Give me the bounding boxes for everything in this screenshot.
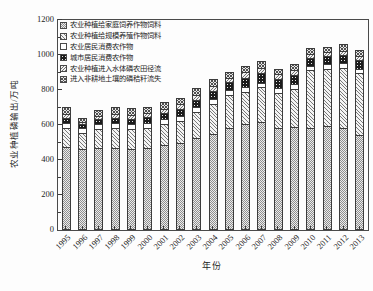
x-tick [65, 226, 66, 229]
bar-segment-3 [193, 107, 200, 112]
bar-segment-1 [226, 128, 233, 229]
bar-segment-6 [291, 64, 298, 70]
bar-segment-5 [177, 104, 184, 108]
bar-segment-1 [112, 148, 119, 229]
bar-segment-2 [307, 70, 314, 128]
bar-segment-3 [324, 64, 331, 69]
x-tick [147, 226, 148, 229]
x-tick [98, 226, 99, 229]
bar-segment-6 [242, 66, 249, 72]
legend-item: 进入非耕地土壤的磷秸秆流失 [60, 74, 161, 85]
legend-label: 农业种植进入水体磷农田径流 [70, 65, 161, 73]
bar-segment-6 [340, 44, 347, 50]
bar-1996 [78, 118, 87, 230]
y-minor-tick [58, 177, 61, 178]
bar-2001 [160, 102, 169, 230]
x-tick [114, 226, 115, 229]
bar-2002 [176, 98, 185, 230]
bar-segment-6 [210, 79, 217, 87]
y-tick [58, 19, 62, 20]
bar-segment-3 [112, 123, 119, 128]
y-minor-tick [58, 72, 61, 73]
x-tick [294, 226, 295, 229]
bar-1998 [111, 107, 120, 230]
y-tick [58, 89, 62, 90]
bar-segment-1 [275, 128, 282, 229]
bar-segment-2 [340, 68, 347, 128]
y-tick [58, 159, 62, 160]
bar-segment-1 [95, 148, 102, 229]
bar-segment-5 [210, 86, 217, 91]
y-tick [58, 194, 62, 195]
y-tick-label: 400 [18, 154, 54, 164]
bar-segment-6 [95, 110, 102, 116]
bar-2008 [274, 69, 283, 230]
x-tick [196, 226, 197, 229]
bar-2007 [257, 61, 266, 230]
bar-2006 [241, 66, 250, 230]
bar-segment-1 [258, 122, 265, 229]
bar-segment-6 [275, 69, 282, 74]
bar-segment-5 [193, 95, 200, 100]
legend-item: 农业居民消费农作物 [60, 42, 161, 53]
bar-2005 [225, 72, 234, 230]
bar-segment-5 [226, 78, 233, 82]
bar-segment-3 [95, 124, 102, 129]
bar-segment-6 [79, 118, 86, 122]
bar-segment-2 [258, 87, 265, 122]
bar-segment-1 [193, 138, 200, 229]
bar-segment-1 [356, 135, 363, 230]
y-tick-label: 800 [18, 84, 54, 94]
x-tick [277, 226, 278, 229]
bar-segment-6 [356, 50, 363, 56]
bar-segment-1 [340, 128, 347, 230]
bar-segment-2 [356, 73, 363, 134]
bar-segment-6 [177, 98, 184, 105]
bar-segment-2 [144, 128, 151, 148]
bar-segment-1 [307, 128, 314, 229]
bar-segment-6 [63, 107, 70, 113]
bar-segment-1 [291, 127, 298, 229]
bar-segment-3 [242, 87, 249, 92]
bar-segment-2 [275, 93, 282, 129]
bar-segment-2 [112, 128, 119, 148]
bar-segment-3 [161, 119, 168, 124]
x-axis-title: 年份 [202, 259, 222, 272]
bar-segment-5 [161, 109, 168, 113]
bar-segment-6 [193, 88, 200, 95]
bar-segment-1 [210, 134, 217, 229]
x-tick [228, 226, 229, 229]
legend-swatch-1 [60, 22, 67, 29]
bar-segment-4 [307, 58, 314, 66]
bar-2013 [355, 50, 364, 230]
y-tick-label: 1200 [18, 14, 54, 24]
bar-2000 [143, 107, 152, 231]
x-tick [179, 226, 180, 229]
bar-segment-4 [177, 109, 184, 116]
bar-segment-6 [128, 108, 135, 114]
bar-segment-2 [324, 69, 331, 126]
bar-segment-2 [226, 95, 233, 128]
bar-segment-4 [226, 82, 233, 90]
bar-segment-3 [340, 63, 347, 68]
x-tick [245, 226, 246, 229]
bar-segment-2 [63, 128, 70, 147]
x-tick [82, 226, 83, 229]
bar-segment-3 [226, 90, 233, 95]
bar-segment-3 [177, 116, 184, 121]
bar-segment-3 [356, 69, 363, 74]
bar-segment-4 [291, 75, 298, 85]
bar-segment-4 [63, 118, 70, 123]
bar-segment-2 [128, 129, 135, 149]
legend-item: 农业种植给规模养殖作物饲料 [60, 31, 161, 42]
y-tick [58, 54, 62, 55]
legend-label: 农业种植给规模养殖作物饲料 [70, 32, 161, 40]
bar-segment-4 [95, 119, 102, 124]
bar-1995 [62, 107, 71, 230]
bar-segment-2 [291, 89, 298, 127]
bar-segment-5 [307, 54, 314, 58]
bar-segment-6 [324, 47, 331, 53]
bar-2009 [290, 64, 299, 230]
y-minor-tick [58, 107, 61, 108]
legend: 农业种植给家庭饲养作物饲料农业种植给规模养殖作物饲料农业居民消费农作物城市居民消… [60, 20, 161, 85]
